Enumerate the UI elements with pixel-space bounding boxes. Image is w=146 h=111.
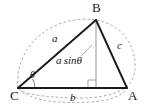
angle-label-theta: θ [30, 70, 35, 80]
side-label-a: a [52, 33, 58, 44]
vertex-label-b: B [92, 1, 101, 14]
vertex-label-a: A [128, 89, 137, 102]
angle-arc-theta [33, 79, 35, 88]
altitude-label-leader-line [81, 45, 92, 56]
side-label-b: b [70, 92, 76, 103]
side-label-c: c [117, 40, 122, 51]
triangle-side-c-ba [96, 20, 127, 88]
geometry-figure: B C A a b c θ a sinθ [0, 0, 146, 111]
right-angle-marker [88, 80, 96, 88]
altitude-label: a sinθ [56, 55, 82, 66]
vertex-label-c: C [10, 89, 19, 102]
